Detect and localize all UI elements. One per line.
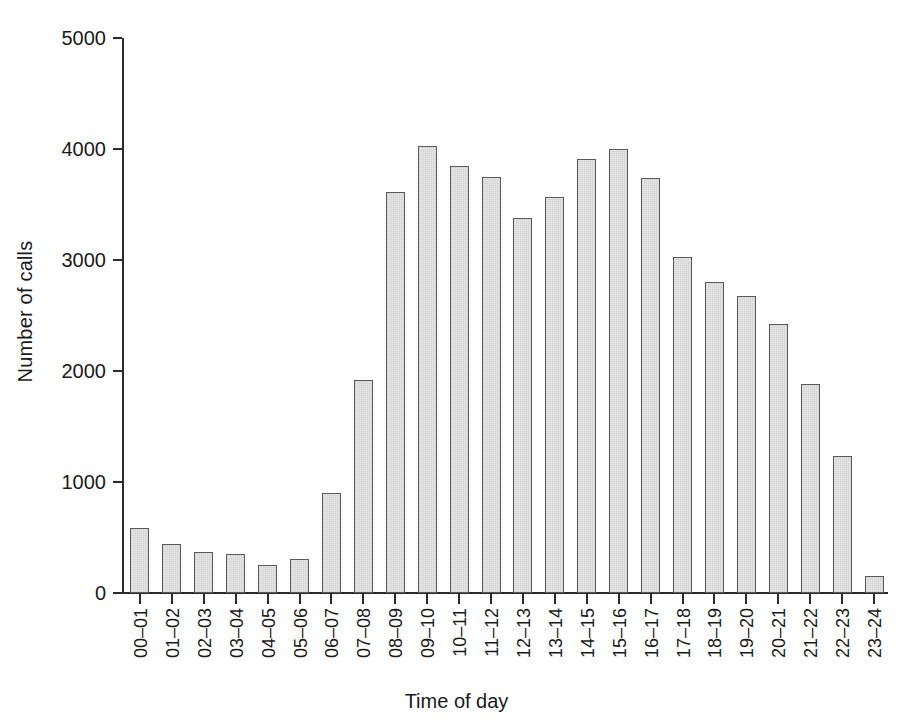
x-axis-tick-label-text: 18–19 — [705, 608, 725, 658]
x-axis-tick-label-text: 10–11 — [450, 608, 470, 657]
x-axis-tick-label-text: 21–22 — [801, 608, 821, 658]
x-axis-tick — [235, 594, 237, 604]
x-axis-tick — [618, 594, 620, 604]
x-axis-tick-label: 21–22 — [800, 608, 820, 688]
x-axis-tick-label: 09–10 — [417, 608, 437, 688]
bar — [641, 178, 660, 593]
x-axis-tick-label: 02–03 — [194, 608, 214, 688]
x-axis-tick-label: 01–02 — [162, 608, 182, 688]
x-axis-tick — [490, 594, 492, 604]
x-axis-tick — [554, 594, 556, 604]
x-axis-tick-label: 08–09 — [385, 608, 405, 688]
x-axis-tick — [809, 594, 811, 604]
x-axis-tick-label-text: 15–16 — [610, 608, 630, 658]
bar — [450, 166, 469, 593]
x-axis-tick — [522, 594, 524, 604]
x-axis-tick-label-text: 04–05 — [259, 608, 279, 658]
x-axis-tick-label: 15–16 — [609, 608, 629, 688]
x-axis-tick — [139, 594, 141, 604]
x-axis-tick — [299, 594, 301, 604]
x-axis-tick-label-text: 09–10 — [418, 608, 438, 658]
x-axis-tick — [171, 594, 173, 604]
bar — [194, 552, 213, 593]
x-axis-tick — [426, 594, 428, 604]
x-axis-tick — [777, 594, 779, 604]
y-axis-tick — [113, 592, 122, 594]
bar — [258, 565, 277, 593]
y-axis-tick-label: 0 — [0, 582, 106, 605]
x-axis-tick — [203, 594, 205, 604]
y-axis-line — [122, 38, 124, 594]
bar — [673, 257, 692, 593]
bar — [322, 493, 341, 593]
bar — [162, 544, 181, 593]
x-axis-tick-label: 04–05 — [258, 608, 278, 688]
x-axis-tick — [745, 594, 747, 604]
x-axis-tick — [267, 594, 269, 604]
x-axis-tick-label: 13–14 — [545, 608, 565, 688]
x-axis-tick-label: 16–17 — [641, 608, 661, 688]
bar-chart: Number of calls 010002000300040005000 00… — [0, 0, 913, 723]
bar — [737, 296, 756, 593]
x-axis-tick-label: 20–21 — [768, 608, 788, 688]
x-axis-title: Time of day — [0, 690, 913, 713]
bar — [130, 528, 149, 593]
x-axis-tick-label: 11–12 — [481, 608, 501, 688]
bar — [513, 218, 532, 593]
x-axis-tick-label-text: 05–06 — [291, 608, 311, 658]
x-axis-tick-label-text: 07–08 — [354, 608, 374, 658]
x-axis-tick-label-text: 19–20 — [737, 608, 757, 658]
x-axis-tick-label-text: 03–04 — [227, 608, 247, 658]
y-axis-tick-label: 3000 — [0, 249, 106, 272]
bar — [801, 384, 820, 593]
x-axis-tick-label-text: 23–24 — [865, 608, 885, 658]
bar — [545, 197, 564, 593]
x-axis-tick — [713, 594, 715, 604]
bar — [226, 554, 245, 593]
x-axis-tick — [394, 594, 396, 604]
x-axis-tick-label-text: 00–01 — [131, 608, 151, 658]
x-axis-tick-label-text: 16–17 — [642, 608, 662, 658]
x-axis-tick-label-text: 22–23 — [833, 608, 853, 658]
x-axis-tick-label-text: 14–15 — [578, 608, 598, 658]
y-axis-tick-label: 2000 — [0, 360, 106, 383]
x-axis-tick-label-text: 08–09 — [386, 608, 406, 658]
x-axis-tick — [682, 594, 684, 604]
x-axis-tick-label: 07–08 — [353, 608, 373, 688]
x-axis-tick-label: 06–07 — [321, 608, 341, 688]
y-axis-tick — [113, 481, 122, 483]
bar — [354, 380, 373, 593]
y-axis-tick — [113, 37, 122, 39]
y-axis-title: Number of calls — [14, 192, 37, 432]
x-axis-tick — [458, 594, 460, 604]
bar — [386, 192, 405, 593]
bar — [705, 282, 724, 593]
bar — [290, 559, 309, 593]
x-axis-tick-label-text: 17–18 — [674, 608, 694, 658]
bar — [609, 149, 628, 593]
y-axis-tick-label: 1000 — [0, 471, 106, 494]
x-axis-tick-label: 17–18 — [673, 608, 693, 688]
x-axis-tick-label: 10–11 — [449, 608, 469, 688]
x-axis-tick-label-text: 06–07 — [322, 608, 342, 658]
x-axis-tick-label-text: 20–21 — [769, 608, 789, 658]
x-axis-tick-label: 03–04 — [226, 608, 246, 688]
x-axis-tick — [330, 594, 332, 604]
x-axis-tick — [586, 594, 588, 604]
x-axis-tick-label-text: 02–03 — [195, 608, 215, 658]
x-axis-tick-label-text: 12–13 — [514, 608, 534, 658]
x-axis-tick — [362, 594, 364, 604]
x-axis-tick — [841, 594, 843, 604]
x-axis-tick-label-text: 01–02 — [163, 608, 183, 658]
x-axis-tick-label: 05–06 — [290, 608, 310, 688]
bar — [482, 177, 501, 593]
y-axis-tick — [113, 370, 122, 372]
x-axis-tick-label: 22–23 — [832, 608, 852, 688]
x-axis-tick-label: 19–20 — [736, 608, 756, 688]
bar — [833, 456, 852, 593]
y-axis-tick — [113, 259, 122, 261]
bar — [577, 159, 596, 593]
x-axis-tick — [650, 594, 652, 604]
x-axis-tick-label: 18–19 — [704, 608, 724, 688]
bar — [418, 146, 437, 593]
